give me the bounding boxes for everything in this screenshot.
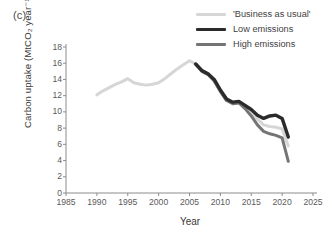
plot-area <box>0 0 332 241</box>
series-line-business-as-usual <box>97 61 288 146</box>
figure-panel-c: (c) 'Business as usual' Low emissions Hi… <box>0 0 332 241</box>
series-line-high-emissions <box>196 64 289 161</box>
